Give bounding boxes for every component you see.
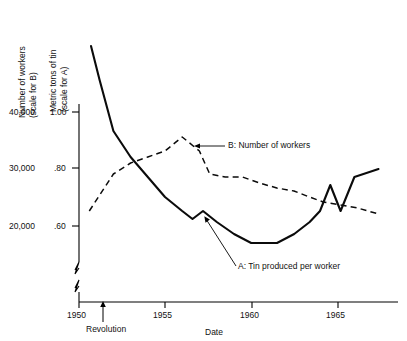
- revolution-annotation-label: Revolution: [86, 324, 126, 334]
- y-axis-right-title-line1: Metric tons of tin: [48, 50, 58, 112]
- y-axis-right-title-line2: (scale for A): [59, 67, 69, 112]
- y-tick-label-left-30000: 30,000: [9, 163, 35, 173]
- x-tick-label-1950: 1950: [67, 310, 86, 320]
- axis-break-mark-lower: [75, 280, 79, 292]
- chart-figure: Number of workers (scale for B) Metric t…: [0, 0, 407, 341]
- axis-break-mark-upper: [75, 262, 79, 274]
- x-tick-label-1960: 1960: [240, 310, 259, 320]
- y-tick-label-left-20000: 20,000: [9, 221, 35, 231]
- y-tick-label-left-40000: 40,000: [9, 107, 35, 117]
- x-axis-title: Date: [205, 327, 223, 337]
- y-tick-label-right-0.60: .60: [54, 221, 66, 231]
- x-tick-label-1965: 1965: [326, 310, 345, 320]
- label-b-arrowhead: [194, 143, 200, 148]
- series-b-annotation-label: B: Number of workers: [228, 140, 310, 150]
- series-a-annotation-label: A: Tin produced per worker: [238, 261, 340, 271]
- y-tick-label-right-0.80: .80: [54, 163, 66, 173]
- y-tick-label-right-1.00: 1.00: [50, 107, 67, 117]
- label-a-arrowhead: [204, 216, 210, 223]
- x-tick-label-1955: 1955: [153, 310, 172, 320]
